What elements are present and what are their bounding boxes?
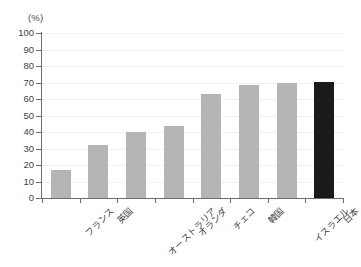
y-axis-tick-label: 10 [4,177,34,187]
y-axis-tick-mark [36,66,41,67]
gridline [42,149,343,150]
x-axis-category-label: フランス [83,206,116,239]
bar [314,82,334,198]
x-axis-category-label: イスラエル [312,206,351,245]
x-axis-tick-mark [155,199,156,203]
bar [201,94,221,198]
gridline [42,83,343,84]
y-axis-tick-mark [36,182,41,183]
x-axis-category-label: 英国 [116,206,136,226]
y-axis-tick-mark [36,165,41,166]
x-axis-tick-mark [80,199,81,203]
y-axis-tick-mark [36,99,41,100]
bar [277,83,297,199]
y-axis-tick-label: 20 [4,160,34,170]
gridline [42,50,343,51]
y-axis-tick-mark [36,83,41,84]
gridline [42,33,343,34]
plot-area [42,33,343,198]
bar-chart: (%) 1009080706050403020100 フランス英国オーストラリア… [0,0,361,267]
y-axis-tick-labels: 1009080706050403020100 [0,0,34,267]
x-axis-tick-mark [343,199,344,203]
x-axis-category-label: チェコ [231,206,257,232]
y-axis-tick-label: 100 [4,28,34,38]
gridline [42,116,343,117]
x-axis-category-label: 韓国 [266,206,286,226]
y-axis-tick-label: 50 [4,111,34,121]
y-axis-tick-mark [36,198,41,199]
y-axis-tick-mark [36,116,41,117]
y-axis-tick-mark [36,149,41,150]
y-axis-tick-label: 80 [4,61,34,71]
gridline [42,99,343,100]
x-axis-tick-mark [117,199,118,203]
bar [51,170,71,198]
bar [88,145,108,198]
y-axis-tick-label: 60 [4,94,34,104]
x-axis-tick-mark [230,199,231,203]
y-axis-tick-mark [36,33,41,34]
x-axis-tick-mark [42,199,43,203]
x-axis-tick-mark [268,199,269,203]
x-axis-tick-mark [193,199,194,203]
y-axis-tick-label: 90 [4,45,34,55]
x-axis-category-label: オーストラリア [167,206,219,258]
y-axis-tick-label: 30 [4,144,34,154]
bar [126,132,146,198]
x-axis-tick-mark [305,199,306,203]
gridline [42,165,343,166]
bar [164,126,184,198]
y-axis-tick-label: 40 [4,127,34,137]
gridline [42,182,343,183]
gridline [42,132,343,133]
y-axis-tick-label: 70 [4,78,34,88]
y-axis-tick-mark [36,50,41,51]
y-axis-tick-mark [36,132,41,133]
gridline [42,66,343,67]
bar [239,85,259,198]
y-axis-tick-label: 0 [4,193,34,203]
